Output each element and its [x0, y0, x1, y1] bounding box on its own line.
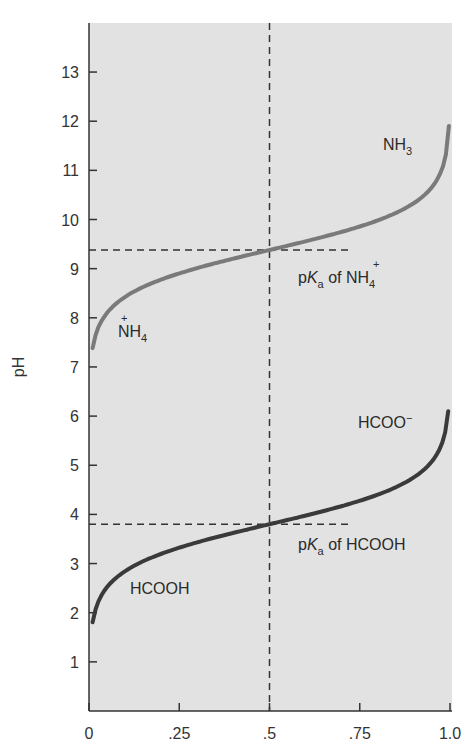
y-tick-label: 9 — [70, 261, 79, 278]
y-tick-label: 3 — [70, 556, 79, 573]
y-tick-label: 5 — [70, 457, 79, 474]
plot-background — [89, 23, 452, 711]
x-tick-label: 1.0 — [439, 725, 461, 742]
y-tick-label: 6 — [70, 408, 79, 425]
y-tick-label: 8 — [70, 310, 79, 327]
y-tick-label: 12 — [61, 113, 79, 130]
pka-nh4-charge: + — [373, 258, 379, 270]
x-tick-label: .5 — [263, 725, 276, 742]
hcooh-label: HCOOH — [130, 580, 190, 597]
nh4-charge: + — [121, 312, 127, 324]
y-tick-label: 1 — [70, 654, 79, 671]
x-tick-label: .25 — [168, 725, 190, 742]
y-tick-label: 11 — [62, 162, 79, 179]
y-tick-label: 4 — [70, 506, 79, 523]
x-tick-label: .75 — [349, 725, 371, 742]
y-tick-label: 10 — [61, 212, 79, 229]
y-tick-label: 2 — [70, 605, 79, 622]
titration-chart: 12345678910111213 0.25.5.751.0 pH NH3 NH… — [0, 0, 475, 754]
y-tick-label: 7 — [70, 359, 79, 376]
x-tick-label: 0 — [85, 725, 94, 742]
y-tick-label: 13 — [61, 64, 79, 81]
hcoo-label: HCOO− — [358, 412, 412, 431]
y-axis-title: pH — [10, 357, 27, 377]
